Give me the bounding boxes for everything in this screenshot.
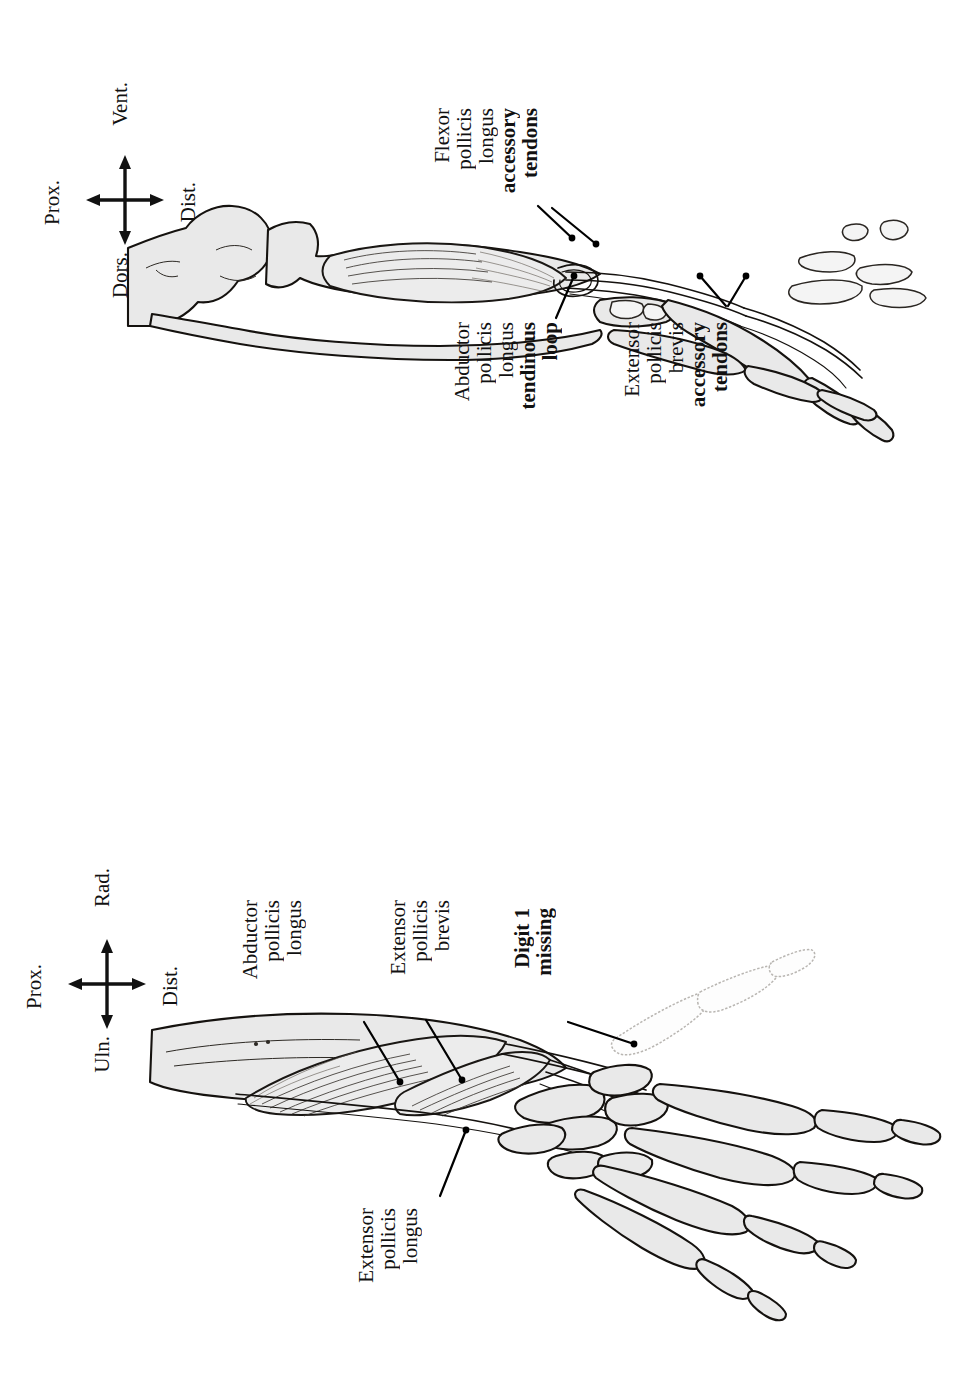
label-line-bold: accessory (688, 322, 709, 407)
label-flexor-pollicis-longus-accessory-tendons: Flexor pollicis longus accessory tendons (432, 108, 542, 193)
label-line: Flexor (432, 108, 453, 163)
label-digit-1-missing: Digit 1 missing (512, 908, 556, 976)
panel-dorsal-view: Prox. Dist. Rad. Uln. (0, 700, 966, 1397)
label-line: brevis (432, 900, 453, 951)
label-line: longus (400, 1208, 421, 1264)
artwork-dorsal-forelimb-hand (0, 700, 966, 1397)
panel-ventral-view: Prox. Dist. Vent. Dors. (0, 0, 966, 700)
label-line-bold: loop (540, 322, 561, 361)
label-extensor-pollicis-longus: Extensor pollicis longus (356, 1208, 422, 1283)
label-line: Extensor (388, 900, 409, 975)
label-line: pollicis (262, 900, 283, 962)
label-extensor-pollicis-brevis-accessory-tendons: Extensor pollicis brevis accessory tendo… (622, 322, 732, 407)
ghost-digit-1-missing (612, 950, 815, 1055)
label-line-bold: accessory (498, 108, 519, 193)
label-line: longus (284, 900, 305, 956)
free-phalanges-other-digits-ventral (789, 220, 926, 307)
label-line-bold: missing (534, 908, 555, 976)
label-line: pollicis (474, 322, 495, 384)
label-line: Abductor (240, 900, 261, 979)
label-line: Abductor (452, 322, 473, 401)
label-line-bold: tendons (520, 108, 541, 178)
label-abductor-pollicis-longus: Abductor pollicis longus (240, 900, 306, 979)
label-line-bold: tendinous (518, 322, 539, 410)
label-extensor-pollicis-brevis: Extensor pollicis brevis (388, 900, 454, 975)
label-line: brevis (666, 322, 687, 373)
label-line: Extensor (622, 322, 643, 397)
label-line-bold: tendons (710, 322, 731, 392)
label-line: longus (476, 108, 497, 164)
figure-plate: Prox. Dist. Vent. Dors. (0, 0, 966, 1397)
label-line: pollicis (454, 108, 475, 170)
label-line: Extensor (356, 1208, 377, 1283)
label-line: longus (496, 322, 517, 378)
label-line: pollicis (410, 900, 431, 962)
label-line-bold: Digit 1 (512, 908, 533, 968)
label-line: pollicis (378, 1208, 399, 1270)
label-abductor-pollicis-longus-tendinous-loop: Abductor pollicis longus tendinous loop (452, 322, 562, 410)
label-line: pollicis (644, 322, 665, 384)
muscle-belly-flexor-mass (323, 243, 567, 302)
